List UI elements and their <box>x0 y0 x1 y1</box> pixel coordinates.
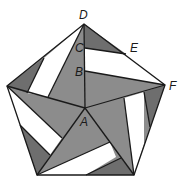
label-C: C <box>75 41 84 55</box>
label-B: B <box>75 65 83 79</box>
label-A: A <box>79 115 88 129</box>
label-F: F <box>169 79 177 93</box>
label-E: E <box>130 41 139 55</box>
pentagon-diagram: D C E B F A <box>0 0 186 184</box>
label-D: D <box>79 8 88 22</box>
